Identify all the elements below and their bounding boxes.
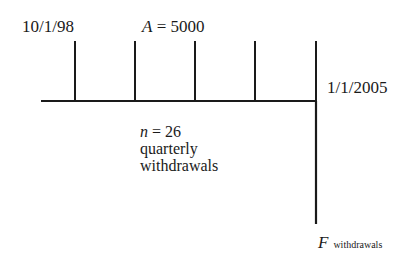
annuity-equals: = xyxy=(157,17,167,36)
future-value-label: Fwithdrawals xyxy=(318,234,382,251)
periods-desc-line2: withdrawals xyxy=(140,157,218,174)
periods-equals: = xyxy=(152,123,161,140)
periods-label: n = 26 quarterly withdrawals xyxy=(140,123,218,174)
periods-desc-line1: quarterly xyxy=(140,140,218,157)
annuity-label: A = 5000 xyxy=(142,18,204,35)
periods-symbol: n xyxy=(140,123,148,140)
annuity-symbol: A xyxy=(142,17,152,36)
annuity-value: 5000 xyxy=(170,17,204,36)
end-date-label: 1/1/2005 xyxy=(327,79,387,96)
periods-value: 26 xyxy=(165,123,181,140)
start-date-label: 10/1/98 xyxy=(22,18,74,35)
periods-count: n = 26 xyxy=(140,123,218,140)
future-value-subscript: withdrawals xyxy=(333,239,382,250)
future-value-symbol: F xyxy=(318,233,328,252)
